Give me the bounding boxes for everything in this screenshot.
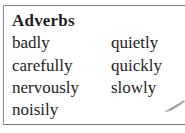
word-badly: badly: [12, 33, 50, 53]
word-carefully: carefully: [12, 56, 72, 76]
word-quietly: quietly: [111, 33, 158, 53]
word-slowly: slowly: [111, 78, 156, 98]
word-quickly: quickly: [111, 56, 162, 76]
word-nervously: nervously: [12, 78, 79, 98]
adverbs-word-box: Adverbs badly carefully nervously noisil…: [3, 5, 185, 125]
pencil-stroke-icon: [163, 99, 185, 113]
box-title: Adverbs: [12, 11, 75, 31]
word-noisily: noisily: [12, 100, 58, 120]
